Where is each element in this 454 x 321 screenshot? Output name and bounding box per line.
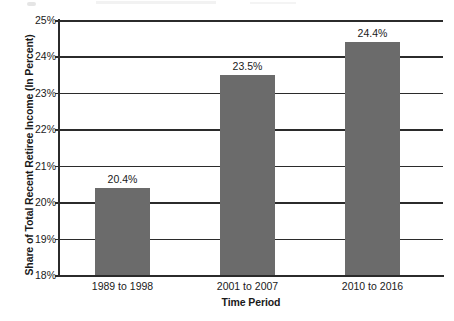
y-axis-tick-labels: 25% 24% 23% 22% 21% 20% 19% 18%	[14, 0, 56, 321]
y-tick-mark	[55, 202, 59, 204]
y-tick-label: 22%	[16, 122, 56, 136]
plot-area: 20.4% 23.5% 24.4%	[59, 20, 443, 275]
bar-2010-to-2016[interactable]	[345, 42, 400, 275]
y-tick-mark	[55, 239, 59, 241]
bar-value-label: 20.4%	[85, 173, 160, 186]
y-tick-mark	[55, 56, 59, 58]
x-axis-title: Time Period	[59, 296, 443, 308]
x-tick-label: 1989 to 1998	[83, 279, 163, 293]
bar-chart-figure: Share of Total Recent Retiree Income (In…	[0, 0, 454, 321]
y-tick-mark	[55, 20, 59, 22]
bar-value-label: 23.5%	[210, 60, 285, 73]
bar-1989-to-1998[interactable]	[95, 188, 150, 275]
y-tick-label: 20%	[16, 195, 56, 209]
y-tick-label: 18%	[16, 268, 56, 282]
bar-2001-to-2007[interactable]	[220, 75, 275, 275]
x-axis-line	[58, 275, 444, 277]
y-tick-label: 21%	[16, 159, 56, 173]
x-tick-label: 2001 to 2007	[208, 279, 288, 293]
y-tick-mark	[55, 93, 59, 95]
y-tick-label: 25%	[16, 13, 56, 27]
y-tick-label: 19%	[16, 232, 56, 246]
y-tick-label: 24%	[16, 49, 56, 63]
gridline	[59, 20, 443, 22]
x-tick-label: 2010 to 2016	[333, 279, 413, 293]
y-tick-label: 23%	[16, 86, 56, 100]
plot-inner: 20.4% 23.5% 24.4%	[59, 20, 443, 275]
bar-value-label: 24.4%	[335, 27, 410, 40]
y-tick-mark	[55, 166, 59, 168]
y-tick-mark	[55, 129, 59, 131]
y-tick-mark	[55, 275, 59, 277]
x-axis-tick-labels: 1989 to 1998 2001 to 2007 2010 to 2016	[59, 279, 443, 295]
